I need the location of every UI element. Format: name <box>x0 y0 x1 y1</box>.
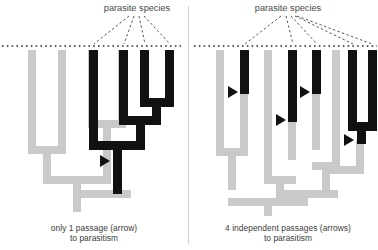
phylogeny-diagram-svg <box>0 0 378 250</box>
left-node-b-stem <box>103 120 111 184</box>
left-tip-2-branch <box>58 50 66 154</box>
left-tip-6-branch <box>119 50 128 124</box>
right-tip-6-branch <box>332 50 340 170</box>
right-root-stem <box>264 198 272 216</box>
right-parasite-species-label: parasite species <box>240 3 336 14</box>
right-passage-arrow-1 <box>228 86 238 98</box>
left-tip-8-branch <box>165 50 174 106</box>
right-tip-2-parasite-segment <box>240 50 249 94</box>
left-parasite-stem <box>113 141 122 194</box>
figure-container: parasite species parasite species only 1… <box>0 0 378 250</box>
right-tip-1-branch <box>216 50 224 156</box>
left-tip-7-branch <box>140 50 149 106</box>
left-root-bar <box>73 190 131 198</box>
left-parasite-species-label: parasite species <box>89 3 185 14</box>
left-tip-1-branch <box>28 50 36 154</box>
left-node-678-stem <box>136 116 145 142</box>
left-caption-line-1: only 1 passage (arrow) <box>22 223 166 233</box>
right-tip-4-parasite-segment <box>288 50 297 122</box>
right-passage-arrow-2 <box>276 114 286 126</box>
right-parasite-segments <box>240 50 377 144</box>
left-tip-5-branch <box>89 50 98 150</box>
right-passage-arrow-4 <box>344 134 354 146</box>
left-caption-line-2: to parasitism <box>22 233 166 243</box>
right-caption-line-1: 4 independent passages (arrows) <box>208 223 368 233</box>
left-label-leader-lines <box>94 16 170 44</box>
right-panel-tree <box>194 16 377 216</box>
right-node-78-black-stem <box>357 122 366 144</box>
right-tip-5-parasite-segment <box>312 50 321 94</box>
left-tip-5-black-cap <box>89 50 98 58</box>
left-root-stem <box>73 190 81 212</box>
right-tip-8-parasite-segment <box>368 50 377 130</box>
left-panel-tree <box>2 16 181 212</box>
right-label-leader-lines <box>245 16 372 44</box>
left-caption: only 1 passage (arrow) to parasitism <box>22 223 166 243</box>
right-tip-7-parasite-segment <box>348 50 357 130</box>
right-caption: 4 independent passages (arrows) to paras… <box>208 223 368 243</box>
right-caption-line-2: to parasitism <box>208 233 368 243</box>
right-node-12-stem <box>228 148 236 190</box>
right-passage-arrow-3 <box>300 86 310 98</box>
right-tip-3-branch <box>264 50 272 184</box>
right-node-5678-bar <box>322 166 364 174</box>
